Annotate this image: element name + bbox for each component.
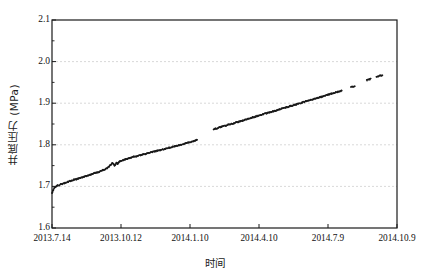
y-tick-label: 1.7 bbox=[28, 181, 50, 191]
x-tick-label: 2013.10.12 bbox=[100, 233, 142, 243]
x-tick-label: 2014.4.10 bbox=[240, 233, 277, 243]
y-tick-label: 2.1 bbox=[28, 15, 50, 25]
data-point bbox=[53, 189, 55, 191]
x-axis-title: 时间 bbox=[0, 255, 430, 270]
data-point bbox=[341, 90, 343, 92]
data-point bbox=[196, 139, 198, 141]
y-axis-title: 井底压力 (MPa) bbox=[4, 40, 22, 210]
y-tick-label: 2.0 bbox=[28, 57, 50, 67]
axis-ticks bbox=[52, 20, 397, 228]
x-tick-label: 2014.7.9 bbox=[312, 233, 345, 243]
x-tick-label: 2014.1.10 bbox=[171, 233, 208, 243]
data-point bbox=[370, 78, 372, 80]
x-tick-label: 2014.10.9 bbox=[378, 233, 415, 243]
y-tick-label: 1.6 bbox=[28, 223, 50, 233]
plot-frame bbox=[52, 20, 397, 228]
y-tick-label: 1.9 bbox=[28, 98, 50, 108]
grid-lines bbox=[52, 62, 397, 187]
data-point bbox=[354, 85, 356, 87]
y-tick-label: 1.8 bbox=[28, 140, 50, 150]
x-tick-label: 2013.7.14 bbox=[33, 233, 70, 243]
chart-container: 井底压力 (MPa) 1.61.71.81.92.02.1 时间 2013.7.… bbox=[0, 0, 430, 276]
data-point bbox=[382, 75, 384, 77]
data-series bbox=[51, 74, 383, 194]
